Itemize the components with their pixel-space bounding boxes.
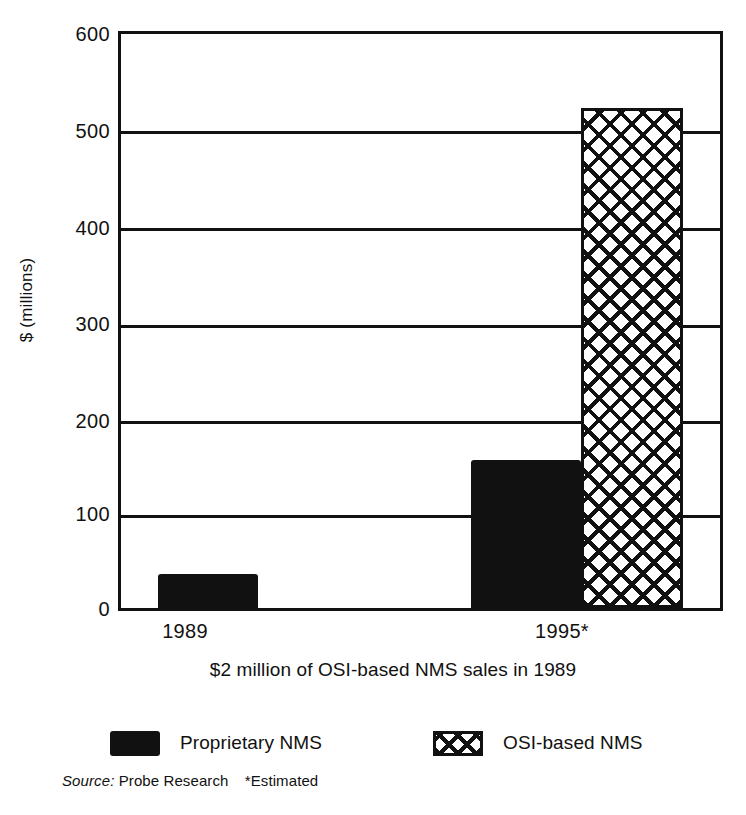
y-tick-label-300: 300 bbox=[48, 314, 110, 334]
legend-label-osi-based-nms: OSI-based NMS bbox=[503, 732, 643, 754]
y-tick-label-100: 100 bbox=[48, 504, 110, 524]
y-axis-title: $ (millions) bbox=[17, 220, 37, 380]
bar-1989-proprietary-nms bbox=[158, 574, 258, 608]
source-value: Probe Research bbox=[119, 772, 229, 789]
source-label: Source: bbox=[62, 772, 114, 789]
y-axis-tick-labels: 600 500 400 300 200 100 0 bbox=[38, 0, 110, 640]
legend-label-proprietary-nms: Proprietary NMS bbox=[180, 732, 322, 754]
legend-swatch-solid-icon bbox=[110, 731, 160, 756]
chart-legend: Proprietary NMS OSI-based NMS bbox=[110, 726, 670, 760]
legend-swatch-crosshatch-icon bbox=[433, 731, 483, 756]
plot-area bbox=[118, 31, 723, 611]
y-tick-label-400: 400 bbox=[48, 218, 110, 238]
legend-item-osi-based-nms: OSI-based NMS bbox=[433, 726, 643, 760]
source-note: Source: Probe Research *Estimated bbox=[62, 772, 318, 789]
y-tick-label-500: 500 bbox=[48, 121, 110, 141]
bar-chart: $ (millions) 600 500 400 300 200 100 0 1… bbox=[0, 0, 746, 815]
x-tick-label-1995: 1995* bbox=[497, 620, 627, 643]
y-tick-label-600: 600 bbox=[48, 24, 110, 44]
bar-1995-proprietary-nms bbox=[471, 460, 581, 608]
y-tick-label-0: 0 bbox=[48, 599, 110, 619]
footnote-estimated: *Estimated bbox=[245, 772, 319, 789]
x-tick-label-1989: 1989 bbox=[120, 620, 250, 643]
legend-item-proprietary-nms: Proprietary NMS bbox=[110, 726, 322, 760]
bar-1995-osi-based-nms bbox=[581, 108, 683, 608]
y-tick-label-200: 200 bbox=[48, 411, 110, 431]
chart-subtitle: $2 million of OSI-based NMS sales in 198… bbox=[0, 659, 746, 681]
